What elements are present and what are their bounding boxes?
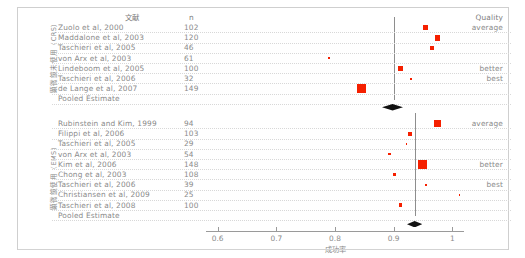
effect-marker xyxy=(430,46,434,50)
bottom-rule xyxy=(18,249,507,250)
effect-marker xyxy=(399,203,403,207)
study-label: Taschieri et al, 2006 xyxy=(58,181,136,188)
pooled-estimate-label: Pooled Estimate xyxy=(58,212,120,219)
study-n-value: 102 xyxy=(184,24,210,31)
effect-marker xyxy=(406,143,408,145)
study-label: Rubinstein and Kim, 1999 xyxy=(58,120,157,127)
effect-marker xyxy=(418,160,427,169)
quality-label: best xyxy=(486,181,503,188)
study-label: Chong et al, 2003 xyxy=(58,171,127,178)
study-n-value: 61 xyxy=(184,55,210,62)
quality-label: better xyxy=(479,161,503,168)
effect-marker xyxy=(398,66,403,71)
study-label: Zuolo et al, 2000 xyxy=(58,24,124,31)
quality-label: average xyxy=(472,24,503,31)
row-separator-pooled xyxy=(52,220,511,221)
study-label: Taschieri et al, 2008 xyxy=(58,202,136,209)
row-separator-pooled xyxy=(52,104,511,105)
plot-area: 文献nQuality顕微鏡未使用（CRS）Zuolo et al, 200010… xyxy=(0,0,525,258)
x-axis-tick xyxy=(335,227,336,231)
column-header-study: 文献 xyxy=(125,14,139,21)
study-n-value: 32 xyxy=(184,75,210,82)
study-n-value: 149 xyxy=(184,85,210,92)
study-label: von Arx et al, 2003 xyxy=(58,55,131,62)
effect-marker xyxy=(408,132,413,137)
study-label: Lindeboom et al, 2005 xyxy=(58,65,144,72)
effect-marker xyxy=(423,25,428,30)
x-axis-tick-label: 0.7 xyxy=(262,234,290,243)
study-n-value: 100 xyxy=(184,202,210,209)
study-n-value: 120 xyxy=(184,34,210,41)
study-label: Filippi et al, 2006 xyxy=(58,130,124,137)
study-label: Kim et al, 2006 xyxy=(58,161,117,168)
row-separator xyxy=(52,159,511,160)
study-n-value: 100 xyxy=(184,65,210,72)
quality-label: average xyxy=(472,120,503,127)
effect-marker xyxy=(410,78,412,80)
effect-marker xyxy=(393,173,396,176)
study-n-value: 103 xyxy=(184,130,210,137)
pooled-estimate-diamond xyxy=(382,96,403,102)
study-n-value: 148 xyxy=(184,161,210,168)
forest-plot-figure: 文献nQuality顕微鏡未使用（CRS）Zuolo et al, 200010… xyxy=(0,0,525,258)
quality-label: better xyxy=(479,65,503,72)
effect-marker xyxy=(459,194,461,196)
study-label: Taschieri et al, 2005 xyxy=(58,44,136,51)
effect-marker xyxy=(425,184,427,186)
study-n-value: 46 xyxy=(184,44,210,51)
pooled-estimate-label: Pooled Estimate xyxy=(58,95,120,102)
study-label: de Lange et al, 2007 xyxy=(58,85,137,92)
study-label: von Arx et al, 2003 xyxy=(58,151,131,158)
quality-label: best xyxy=(486,75,503,82)
x-axis-tick xyxy=(452,227,453,231)
x-axis-tick xyxy=(394,227,395,231)
x-axis-tick-label: 1 xyxy=(438,234,466,243)
study-n-value: 54 xyxy=(184,151,210,158)
study-label: Maddalone et al, 2003 xyxy=(58,34,144,41)
x-axis-tick-label: 0.8 xyxy=(321,234,349,243)
row-separator xyxy=(52,94,511,95)
study-label: Christiansen et al, 2009 xyxy=(58,191,150,198)
column-header-quality: Quality xyxy=(476,14,503,21)
study-n-value: 108 xyxy=(184,171,210,178)
study-label: Taschieri et al, 2005 xyxy=(58,140,136,147)
effect-marker xyxy=(434,120,442,128)
x-axis-tick-label: 0.9 xyxy=(380,234,408,243)
row-separator xyxy=(52,210,511,211)
study-n-value: 25 xyxy=(184,191,210,198)
study-n-value: 29 xyxy=(184,140,210,147)
diamond-shape xyxy=(382,104,403,110)
group-label-group-crs: 顕微鏡未使用（CRS） xyxy=(48,20,58,94)
x-axis-line xyxy=(206,231,464,232)
pooled-estimate-diamond xyxy=(407,212,422,218)
column-header-n: n xyxy=(189,14,194,21)
effect-marker xyxy=(435,35,441,41)
effect-marker xyxy=(357,84,366,93)
effect-marker xyxy=(388,153,391,156)
study-n-value: 39 xyxy=(184,181,210,188)
effect-marker xyxy=(328,57,330,59)
x-axis-tick xyxy=(276,227,277,231)
study-label: Taschieri et al, 2006 xyxy=(58,75,136,82)
study-n-value: 94 xyxy=(184,120,210,127)
reference-line-group-crs xyxy=(394,17,395,100)
x-axis-tick-label: 0.6 xyxy=(204,234,232,243)
diamond-shape xyxy=(407,221,422,227)
x-axis-tick xyxy=(218,227,219,231)
